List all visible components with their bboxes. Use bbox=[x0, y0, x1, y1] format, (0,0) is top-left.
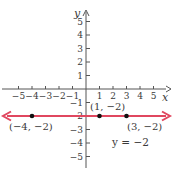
x-tick-label: 3 bbox=[124, 91, 130, 101]
y-tick-label: −3 bbox=[70, 125, 84, 135]
point-label: (3, −2) bbox=[127, 121, 162, 132]
y-axis-label: y bbox=[73, 7, 81, 20]
equation-label: y = −2 bbox=[111, 136, 149, 148]
y-tick-label: 3 bbox=[77, 44, 83, 54]
y-tick-label: 1 bbox=[77, 71, 83, 81]
x-axis-label: x bbox=[162, 91, 169, 104]
y-tick-label: 2 bbox=[77, 57, 83, 67]
y-tick-label: 4 bbox=[77, 30, 83, 40]
point-3-neg2 bbox=[124, 114, 129, 119]
x-tick-label: −4 bbox=[25, 91, 39, 101]
point-label: (−4, −2) bbox=[9, 121, 53, 132]
y-tick-label: −1 bbox=[70, 98, 83, 108]
point-label: (1, −2) bbox=[90, 101, 125, 112]
x-tick-label: 2 bbox=[110, 91, 116, 101]
x-tick-label: −5 bbox=[12, 91, 26, 101]
x-tick-label: 4 bbox=[137, 91, 143, 101]
point-neg4-neg2 bbox=[30, 114, 35, 119]
x-tick-label: 1 bbox=[97, 91, 103, 101]
y-tick-label: −5 bbox=[70, 152, 84, 162]
y-tick-label: −4 bbox=[70, 138, 84, 148]
x-tick-label: −2 bbox=[52, 91, 65, 101]
x-tick-label: −3 bbox=[39, 91, 53, 101]
coordinate-plane: −5 −4 −3 −2 −1 1 2 3 4 5 5 4 3 2 1 −1 −2… bbox=[0, 0, 173, 174]
point-1-neg2 bbox=[97, 114, 102, 119]
x-tick-labels: −5 −4 −3 −2 −1 1 2 3 4 5 bbox=[12, 91, 157, 101]
x-tick-label: 5 bbox=[151, 91, 157, 101]
